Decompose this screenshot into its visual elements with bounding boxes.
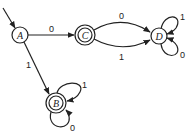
edge-a-c: 0 (28, 24, 74, 35)
edge-c-d-0: 0 (94, 11, 150, 32)
edge-label: 1 (119, 52, 124, 62)
edge-label: 0 (180, 50, 185, 60)
state-label: C (82, 30, 89, 41)
state-label: A (16, 30, 24, 41)
edge-label: 1 (82, 80, 87, 90)
edge-label: 0 (70, 123, 75, 133)
edge-b-b-0: 0 (50, 110, 75, 133)
state-a: A (12, 27, 28, 43)
state-d: D (151, 28, 167, 44)
start-arrow (3, 8, 15, 28)
edge-label: 1 (26, 60, 31, 70)
state-c: C (75, 25, 95, 45)
state-label: B (53, 98, 59, 109)
edge-label: 1 (180, 12, 185, 22)
state-label: D (154, 31, 163, 42)
state-b: B (46, 93, 66, 113)
edge-c-d-1: 1 (94, 39, 150, 62)
edge-label: 0 (49, 24, 54, 34)
edge-label: 0 (119, 11, 124, 21)
state-diagram: 0 1 0 1 1 0 1 0 A C (0, 0, 189, 133)
edge-a-b: 1 (24, 42, 49, 94)
